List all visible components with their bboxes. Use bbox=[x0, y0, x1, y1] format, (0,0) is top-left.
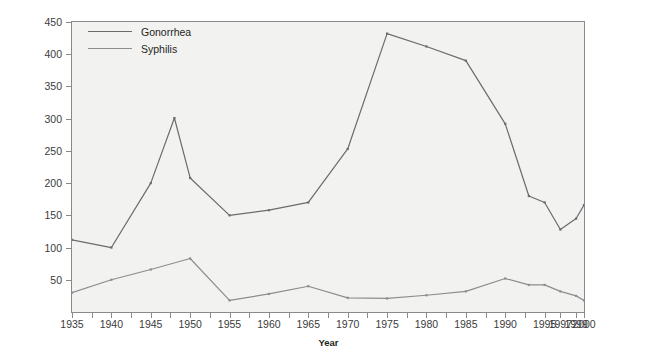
data-point-marker bbox=[189, 177, 191, 179]
data-point-marker bbox=[150, 268, 152, 270]
legend-item-label: Gonorrhea bbox=[141, 26, 191, 38]
x-tick-label: 1960 bbox=[257, 318, 280, 330]
data-point-marker bbox=[528, 195, 530, 197]
data-point-marker bbox=[465, 290, 467, 292]
data-point-marker bbox=[425, 45, 427, 47]
data-point-marker bbox=[575, 217, 577, 219]
y-tick-label: 50 bbox=[28, 275, 62, 285]
y-tick-label: 150 bbox=[28, 210, 62, 220]
data-point-marker bbox=[386, 297, 388, 299]
data-point-marker bbox=[150, 182, 152, 184]
x-tick-label: 2000 bbox=[572, 318, 595, 330]
data-point-marker bbox=[268, 209, 270, 211]
legend: GonorrheaSyphilis bbox=[88, 23, 191, 57]
data-point-marker bbox=[228, 299, 230, 301]
data-point-marker bbox=[559, 228, 561, 230]
data-point-marker bbox=[575, 295, 577, 297]
legend-item-gonorrhea: Gonorrhea bbox=[88, 23, 191, 40]
y-tick-label: 350 bbox=[28, 81, 62, 91]
x-tick-label: 1950 bbox=[178, 318, 201, 330]
x-tick-label: 1940 bbox=[100, 318, 123, 330]
data-point-marker bbox=[583, 299, 584, 301]
data-point-marker bbox=[307, 285, 309, 287]
data-point-marker bbox=[386, 33, 388, 35]
data-point-marker bbox=[268, 293, 270, 295]
x-axis-title: Year bbox=[0, 337, 657, 348]
y-tick-label: 300 bbox=[28, 114, 62, 124]
legend-line-swatch bbox=[88, 31, 132, 32]
line-chart: Cases/100,000 Population (U.S.A.) 450400… bbox=[0, 0, 657, 364]
x-axis-tick-labels: 1935194019451950195519601965197019751980… bbox=[0, 318, 657, 334]
data-point-marker bbox=[72, 292, 73, 294]
data-point-marker bbox=[583, 204, 584, 206]
legend-line-swatch bbox=[88, 48, 132, 49]
x-tick-label: 1935 bbox=[60, 318, 83, 330]
data-point-marker bbox=[307, 201, 309, 203]
x-tick-label: 1945 bbox=[139, 318, 162, 330]
y-tick-label: 450 bbox=[28, 17, 62, 27]
data-point-marker bbox=[189, 257, 191, 259]
data-point-marker bbox=[544, 284, 546, 286]
x-tick-label: 1955 bbox=[218, 318, 241, 330]
y-tick-label: 400 bbox=[28, 49, 62, 59]
y-tick-label: 100 bbox=[28, 243, 62, 253]
x-tick-label: 1965 bbox=[297, 318, 320, 330]
x-tick-label: 1985 bbox=[454, 318, 477, 330]
data-point-marker bbox=[559, 290, 561, 292]
data-point-marker bbox=[173, 117, 175, 119]
y-axis-tick-labels: 45040035030025020015010050 bbox=[28, 0, 62, 364]
data-point-marker bbox=[72, 239, 73, 241]
x-tick-label: 1970 bbox=[336, 318, 359, 330]
x-tick-label: 1990 bbox=[494, 318, 517, 330]
data-point-marker bbox=[528, 284, 530, 286]
x-tick-label: 1975 bbox=[375, 318, 398, 330]
y-tick-label: 250 bbox=[28, 146, 62, 156]
data-point-marker bbox=[110, 279, 112, 281]
plot-area bbox=[71, 21, 585, 313]
data-point-marker bbox=[347, 297, 349, 299]
series-canvas bbox=[72, 22, 584, 312]
legend-item-label: Syphilis bbox=[141, 43, 177, 55]
data-point-marker bbox=[544, 201, 546, 203]
data-point-marker bbox=[425, 294, 427, 296]
data-point-marker bbox=[504, 123, 506, 125]
data-point-marker bbox=[110, 246, 112, 248]
data-point-marker bbox=[228, 214, 230, 216]
x-tick-label: 1980 bbox=[415, 318, 438, 330]
data-point-marker bbox=[504, 277, 506, 279]
legend-item-syphilis: Syphilis bbox=[88, 40, 191, 57]
data-point-marker bbox=[465, 60, 467, 62]
series-line-syphilis bbox=[72, 259, 584, 301]
series-line-gonorrhea bbox=[72, 34, 584, 248]
data-point-marker bbox=[347, 148, 349, 150]
y-tick-label: 200 bbox=[28, 178, 62, 188]
